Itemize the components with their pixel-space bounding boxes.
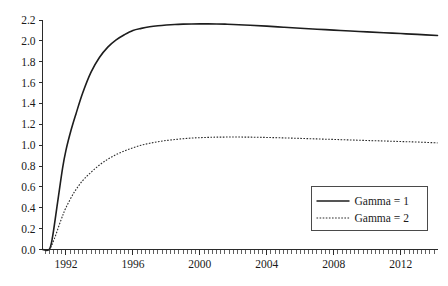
x-tick-label: 2012 xyxy=(389,258,412,270)
x-tick-label: 1996 xyxy=(121,258,144,270)
y-tick-label: 0.2 xyxy=(21,223,36,235)
y-tick-label: 1.2 xyxy=(21,118,36,130)
chart-screenshot: 0.00.20.40.60.81.01.21.41.61.82.02.2 199… xyxy=(0,0,448,286)
legend-label-1: Gamma = 1 xyxy=(355,195,410,207)
y-tick-label: 0.4 xyxy=(21,202,36,214)
x-tick-label: 1992 xyxy=(54,258,77,270)
chart-legend: Gamma = 1Gamma = 2 xyxy=(312,187,428,231)
y-tick-label: 0.8 xyxy=(21,160,36,172)
y-tick-label: 1.8 xyxy=(21,56,36,68)
y-tick-label: 1.6 xyxy=(21,77,36,89)
y-tick-label: 2.0 xyxy=(21,35,36,47)
y-tick-label: 2.2 xyxy=(21,14,36,26)
y-tick-label: 1.4 xyxy=(21,97,36,109)
x-tick-label: 2008 xyxy=(322,258,345,270)
x-tick-label: 2004 xyxy=(255,258,278,270)
y-tick-label: 0.0 xyxy=(21,244,36,256)
legend-label-2: Gamma = 2 xyxy=(355,212,410,224)
y-tick-label: 0.6 xyxy=(21,181,36,193)
y-tick-label: 1.0 xyxy=(21,139,36,151)
x-tick-label: 2000 xyxy=(188,258,211,270)
line-chart: 0.00.20.40.60.81.01.21.41.61.82.02.2 199… xyxy=(0,0,448,286)
